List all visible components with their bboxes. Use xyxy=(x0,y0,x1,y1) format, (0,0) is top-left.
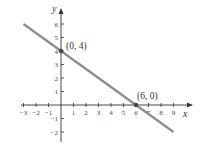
y-axis-label: y xyxy=(51,3,57,14)
svg-text:4: 4 xyxy=(109,109,113,117)
line-chart: −3 −2 −1 1 2 3 4 5 6 7 8 9 6 5 4 3 2 1 −… xyxy=(0,0,202,147)
svg-text:2: 2 xyxy=(84,109,88,117)
point-label-6-0: (6, 0) xyxy=(137,91,158,102)
y-tick-labels: 6 5 4 3 2 1 −1 −2 xyxy=(51,21,59,137)
svg-text:2: 2 xyxy=(55,75,59,83)
svg-text:6: 6 xyxy=(55,21,59,29)
svg-text:1: 1 xyxy=(55,88,59,96)
svg-text:−1: −1 xyxy=(51,115,59,123)
svg-text:5: 5 xyxy=(122,109,126,117)
svg-text:8: 8 xyxy=(159,109,163,117)
svg-text:5: 5 xyxy=(55,34,59,42)
svg-text:−2: −2 xyxy=(51,129,59,137)
point-6-0 xyxy=(134,103,138,107)
point-label-0-4: (0, 4) xyxy=(66,41,87,52)
svg-text:3: 3 xyxy=(55,61,59,69)
svg-text:6: 6 xyxy=(134,109,138,117)
x-axis-arrow-icon xyxy=(187,103,193,108)
svg-text:1: 1 xyxy=(72,109,76,117)
svg-text:−3: −3 xyxy=(20,109,28,117)
svg-text:−2: −2 xyxy=(32,109,40,117)
y-axis-arrow-icon xyxy=(59,8,64,14)
svg-text:9: 9 xyxy=(172,109,176,117)
svg-text:3: 3 xyxy=(97,109,101,117)
point-0-4 xyxy=(59,49,63,53)
x-axis-label: x xyxy=(182,108,188,119)
